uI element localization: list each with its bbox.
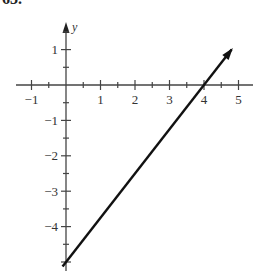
data-line bbox=[63, 50, 232, 267]
x-tick-label: 4 bbox=[201, 92, 208, 107]
problem-number: 63. bbox=[2, 0, 22, 8]
x-tick-label: 2 bbox=[132, 92, 139, 107]
y-tick-label: −1 bbox=[44, 113, 58, 128]
y-tick-label: 1 bbox=[52, 42, 59, 57]
y-axis-label: y bbox=[71, 20, 78, 34]
x-tick-label: 5 bbox=[235, 92, 242, 107]
x-tick-label: 3 bbox=[166, 92, 173, 107]
x-tick-label: 1 bbox=[97, 92, 104, 107]
y-tick-label: −2 bbox=[44, 148, 58, 163]
line-chart: y−1123451−1−2−3−4 bbox=[0, 0, 253, 271]
y-tick-label: −3 bbox=[44, 184, 58, 199]
y-tick-label: −4 bbox=[44, 219, 58, 234]
figure: 63. y−1123451−1−2−3−4 bbox=[0, 0, 253, 271]
x-tick-label: −1 bbox=[25, 92, 39, 107]
